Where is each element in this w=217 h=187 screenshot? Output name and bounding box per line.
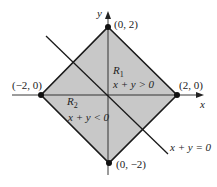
point-2-0	[174, 92, 180, 98]
point-label-0-neg2: (0, −2)	[116, 158, 146, 171]
point-neg2-0	[38, 92, 44, 98]
region-r2-condition: x + y < 0	[67, 111, 110, 123]
region-r1-condition: x + y > 0	[112, 78, 155, 90]
point-0-neg2	[106, 160, 112, 166]
y-axis-arrow-icon	[105, 11, 111, 19]
point-0-2	[105, 24, 111, 30]
line-label: x + y = 0	[169, 141, 212, 153]
point-label-neg2-0: (−2, 0)	[12, 79, 42, 92]
x-axis-label: x	[199, 98, 205, 110]
region-diagram: y x (0, 2) (2, 0) (−2, 0) (0, −2) R1 x +…	[0, 0, 217, 187]
point-label-2-0: (2, 0)	[179, 79, 203, 92]
y-axis-label: y	[96, 7, 102, 19]
point-label-0-2: (0, 2)	[114, 18, 138, 31]
